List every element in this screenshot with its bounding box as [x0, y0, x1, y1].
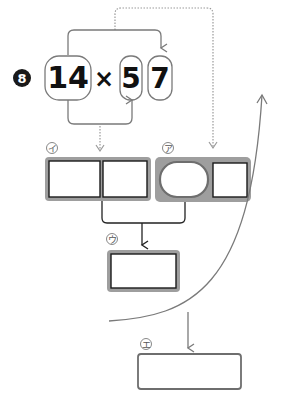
operand-left-pill: 14	[45, 56, 91, 100]
box-e[interactable]	[138, 354, 241, 389]
box-a-cell-right[interactable]	[213, 163, 247, 197]
operand-right-ones-pill: 7	[148, 56, 172, 100]
box-a[interactable]	[155, 157, 251, 202]
label-e: エ	[141, 339, 152, 350]
box-i[interactable]	[45, 157, 151, 201]
bracket-14-to-7	[68, 30, 161, 55]
multiply-sign: ×	[94, 65, 114, 93]
svg-text:イ: イ	[48, 144, 57, 154]
label-i: イ	[47, 143, 58, 154]
box-a-oval[interactable]	[160, 162, 208, 197]
box-i-cell-left[interactable]	[49, 161, 100, 197]
svg-text:エ: エ	[142, 340, 151, 350]
svg-text:ア: ア	[164, 144, 173, 154]
svg-text:14: 14	[47, 60, 89, 95]
operand-right-tens-pill: 5	[120, 56, 142, 100]
box-i-cell-right[interactable]	[103, 161, 147, 197]
problem-number-badge: 8	[13, 69, 31, 87]
dotted-arrow-to-i	[96, 126, 104, 151]
bracket-14-to-5	[68, 100, 132, 124]
bracket-sum-to-u	[102, 201, 185, 223]
box-u[interactable]	[107, 250, 180, 292]
svg-text:ウ: ウ	[108, 235, 117, 245]
svg-text:7: 7	[150, 62, 169, 95]
svg-text:8: 8	[17, 71, 26, 86]
label-a: ア	[163, 143, 174, 154]
svg-text:5: 5	[121, 62, 140, 95]
label-u: ウ	[107, 234, 118, 245]
